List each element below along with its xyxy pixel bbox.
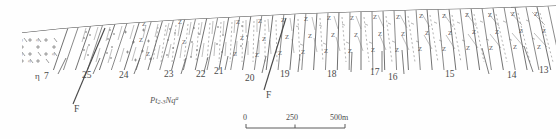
svg-text:Z: Z [534,10,538,17]
svg-text:Z: Z [278,49,282,56]
formation-notation: Pt2-3Nqa [150,95,178,105]
unit-label-17: 17 [370,68,380,78]
svg-text:Z: Z [258,17,262,24]
svg-text:Z: Z [396,13,400,20]
svg-text:Z: Z [418,45,422,52]
svg-text:Z: Z [495,28,499,35]
unit-label-20: 20 [245,74,255,84]
svg-text:Z: Z [511,10,515,17]
fault-label-left: F [74,105,79,115]
svg-text:Z: Z [182,38,186,45]
svg-text:Z: Z [448,29,452,36]
svg-text:Z: Z [146,50,150,57]
svg-text:Z: Z [301,48,305,55]
unit-label-21: 21 [214,67,224,77]
unit-label-18: 18 [327,70,337,80]
svg-text:Z: Z [142,20,146,27]
svg-text:Z: Z [327,14,331,21]
svg-text:≈: ≈ [20,51,23,57]
svg-text:Z: Z [537,43,541,50]
svg-text:Z: Z [304,15,308,22]
svg-text:Z: Z [331,31,335,38]
svg-text:Z: Z [488,11,492,18]
svg-text:Z: Z [425,29,429,36]
svg-text:Z: Z [350,14,354,21]
svg-text:Z: Z [285,33,289,40]
unit-label-14: 14 [507,71,517,81]
svg-text:Z: Z [373,13,377,20]
unit-label-13: 13 [539,66,549,76]
svg-text:≈: ≈ [20,37,23,43]
fault-label-right: F [266,91,271,101]
svg-text:Z: Z [513,43,517,50]
svg-text:Z: Z [401,30,405,37]
svg-text:Z: Z [378,30,382,37]
svg-text:≈: ≈ [52,51,55,57]
scale-tick-500m: 500m [330,114,348,122]
svg-text:Z: Z [348,47,352,54]
svg-text:Z: Z [233,50,237,57]
svg-text:Z: Z [489,44,493,51]
svg-text:Z: Z [419,12,423,19]
unit-label-23: 23 [164,70,174,80]
svg-text:Z: Z [442,12,446,19]
svg-text:≈: ≈ [28,58,31,64]
svg-text:Z: Z [472,28,476,35]
unit-label-25: 25 [82,71,92,81]
eta-intrusive-marker-label: η [35,72,40,81]
svg-text:Z: Z [395,46,399,53]
formation-subscript: 2-3 [158,99,166,105]
bedrock-body: ZZZ ZZ ZZZ ZZZ ZZZ ZZZ ZZZ ZZZ ZZZ ZZZ Z… [0,0,560,80]
formation-symbol: Nq [166,95,176,105]
svg-text:Z: Z [324,47,328,54]
formation-superscript: a [175,95,178,101]
svg-text:Z: Z [465,11,469,18]
svg-text:Z: Z [442,45,446,52]
unit-label-15: 15 [445,70,455,80]
svg-text:Z: Z [542,27,546,34]
geological-cross-section-figure: ZZZ ZZ ZZZ ZZZ ZZZ ZZZ ZZZ ZZZ ZZZ ZZZ Z… [0,0,560,139]
unit-label-24: 24 [119,71,129,81]
svg-text:Z: Z [519,27,523,34]
scale-tick-250: 250 [286,114,298,122]
svg-text:Z: Z [308,32,312,39]
unit-label-22: 22 [196,70,206,80]
formation-prefix: Pt [150,95,158,105]
svg-text:≈: ≈ [36,37,39,43]
svg-text:Z: Z [178,18,182,25]
svg-text:Z: Z [139,36,143,43]
scale-tick-0: 0 [243,114,247,122]
svg-text:Z: Z [371,46,375,53]
unit-label-16: 16 [388,73,398,83]
svg-text:Z: Z [466,44,470,51]
svg-text:Z: Z [354,31,358,38]
svg-text:Z: Z [255,51,259,58]
svg-text:Z: Z [240,34,244,41]
unit-label-7: 7 [44,72,49,82]
svg-text:Z: Z [262,35,266,42]
scale-bar [246,124,345,128]
svg-text:Z: Z [236,18,240,25]
unit-label-19: 19 [280,70,290,80]
